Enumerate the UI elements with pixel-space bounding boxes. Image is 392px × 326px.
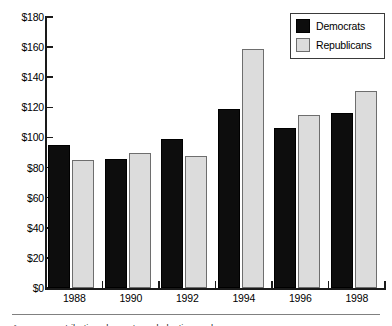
bar-democrats-1994 xyxy=(218,109,240,288)
y-tick-label-20: $20 xyxy=(27,253,44,264)
bar-republicans-1994 xyxy=(242,49,264,288)
footer-caption: Average contributions by party and elect… xyxy=(12,322,380,326)
x-tick-label-1988: 1988 xyxy=(63,293,86,304)
bar-democrats-1998 xyxy=(331,113,353,288)
bar-republicans-1988 xyxy=(72,160,94,288)
y-tick-label-140: $140 xyxy=(21,72,44,83)
y-tick-label-60: $60 xyxy=(27,192,44,203)
bar-republicans-1996 xyxy=(298,115,320,288)
x-tick-label-1992: 1992 xyxy=(176,293,199,304)
x-tick-label-1994: 1994 xyxy=(232,293,255,304)
legend-item-democrats: Democrats xyxy=(296,18,379,34)
bar-democrats-1992 xyxy=(161,139,183,288)
legend-label-democrats: Democrats xyxy=(316,21,365,32)
x-tick-label-1996: 1996 xyxy=(289,293,312,304)
chart-legend: Democrats Republicans xyxy=(290,13,385,59)
bar-democrats-1996 xyxy=(274,128,296,288)
x-tick-label-1998: 1998 xyxy=(345,293,368,304)
y-tick-label-180: $180 xyxy=(21,12,44,23)
y-tick-label-100: $100 xyxy=(21,132,44,143)
bar-republicans-1998 xyxy=(355,91,377,288)
y-tick-label-80: $80 xyxy=(27,162,44,173)
x-tick-label-1990: 1990 xyxy=(119,293,142,304)
bar-chart-figure: $0$20$40$60$80$100$120$140$160$180 19881… xyxy=(0,0,392,326)
legend-swatch-democrats xyxy=(296,19,310,33)
y-tick-label-40: $40 xyxy=(27,223,44,234)
bar-democrats-1990 xyxy=(105,159,127,288)
legend-item-republicans: Republicans xyxy=(296,37,379,53)
y-tick-label-160: $160 xyxy=(21,42,44,53)
bar-republicans-1992 xyxy=(185,156,207,288)
legend-label-republicans: Republicans xyxy=(316,40,372,51)
y-tick-label-0: $0 xyxy=(33,283,44,294)
bar-democrats-1988 xyxy=(48,145,70,288)
y-tick-label-120: $120 xyxy=(21,102,44,113)
bar-republicans-1990 xyxy=(129,153,151,289)
legend-swatch-republicans xyxy=(296,38,310,52)
footer-divider xyxy=(12,314,380,315)
